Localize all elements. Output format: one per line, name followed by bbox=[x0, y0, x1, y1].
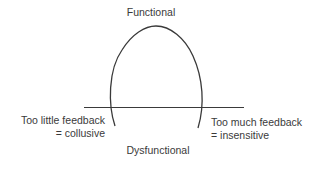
too-much-feedback-label: Too much feedback = insensitive bbox=[211, 116, 302, 142]
collusive-line2: = collusive bbox=[21, 127, 105, 140]
functional-label: Functional bbox=[0, 6, 302, 19]
too-little-feedback-line1: Too little feedback bbox=[21, 114, 105, 127]
insensitive-line2: = insensitive bbox=[211, 129, 302, 142]
inverted-u-curve bbox=[110, 26, 202, 128]
feedback-curve-diagram: Functional Too little feedback = collusi… bbox=[0, 0, 322, 171]
too-much-feedback-line1: Too much feedback bbox=[211, 116, 302, 129]
dysfunctional-label: Dysfunctional bbox=[0, 144, 316, 157]
too-little-feedback-label: Too little feedback = collusive bbox=[21, 114, 105, 140]
